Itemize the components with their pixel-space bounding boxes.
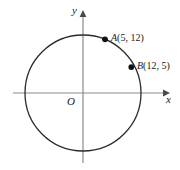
y-axis-arrow-icon xyxy=(80,10,87,17)
point-label-b: B(12, 5) xyxy=(137,61,170,71)
point-label-b-coords: (12, 5) xyxy=(143,60,170,71)
point-marker-a xyxy=(102,36,108,42)
x-axis-label: x xyxy=(166,94,171,105)
y-axis-label: y xyxy=(72,5,77,16)
origin-label: O xyxy=(67,96,75,107)
point-label-a: A(5, 12) xyxy=(111,33,144,43)
point-label-a-coords: (5, 12) xyxy=(117,32,144,43)
point-marker-b xyxy=(128,64,134,70)
figure-canvas xyxy=(0,0,180,170)
coordinate-geometry-figure: y x O A(5, 12) B(12, 5) xyxy=(0,0,180,170)
